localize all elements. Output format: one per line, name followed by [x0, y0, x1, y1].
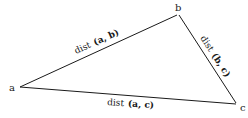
edge-label-prefix: dist: [107, 97, 125, 108]
edge-label-prefix: dist: [198, 34, 216, 54]
svg-text:dist(a, c): dist(a, c): [107, 97, 155, 111]
edge-label-a-c: dist(a, c): [107, 97, 155, 111]
triangle-diagram: a b c dist(a, b) dist(b, c) dist(a, c): [0, 0, 248, 118]
edge-label-prefix: dist: [73, 40, 93, 56]
edge-a-b: [20, 15, 177, 87]
edge-label-args: (a, b): [92, 27, 121, 48]
vertex-label-b: b: [175, 2, 181, 13]
vertex-label-a: a: [9, 82, 15, 93]
edge-label-args: (b, c): [209, 51, 233, 79]
svg-text:dist(b, c): dist(b, c): [197, 34, 232, 80]
edge-label-args: (a, c): [128, 98, 155, 111]
vertex-label-c: c: [240, 102, 246, 113]
edge-b-c: [179, 15, 236, 103]
edge-label-b-c: dist(b, c): [197, 34, 232, 80]
